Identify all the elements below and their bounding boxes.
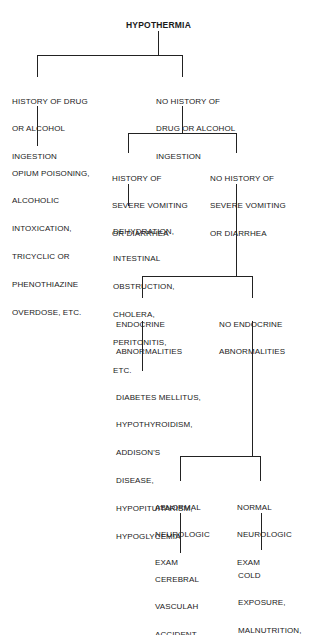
connector [260,456,261,481]
connector [142,321,143,371]
node-endocrine: ENDOCRINE ABNORMALITIES [116,301,182,375]
connector [128,184,129,206]
connector [37,106,38,146]
connector [180,456,181,481]
connector [252,321,253,456]
node-abnormal-neuro-causes: CEREBRAL VASCULAH ACCIDENT, THIAMINE DEF… [155,556,204,635]
node-normal-neuro-causes: COLD EXPOSURE, MALNUTRITION, SHOCK, UREM… [238,552,302,635]
diagram-title: HYPOTHERMIA [126,20,191,30]
connector [158,31,159,55]
connector [180,513,181,553]
connector [236,133,237,153]
connector [37,55,183,56]
connector [142,276,253,277]
connector [37,55,38,77]
connector [182,106,183,133]
connector [236,184,237,276]
connector [180,456,261,457]
connector [182,55,183,77]
connector [252,276,253,298]
connector [128,133,129,153]
node-drug-causes: OPIUM POISONING, ALCOHOLIC INTOXICATION,… [12,150,90,336]
connector [261,513,262,550]
connector [142,276,143,298]
connector [128,133,237,134]
node-no-vomiting-history: NO HISTORY OF SEVERE VOMITING OR DIARRHE… [210,155,286,257]
